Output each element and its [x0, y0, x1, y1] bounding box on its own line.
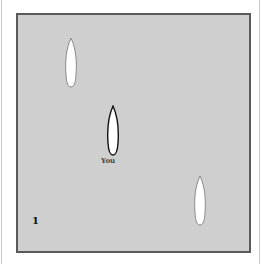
player-boat — [105, 105, 121, 157]
frame-left-border — [1, 0, 2, 264]
frame-right-border — [259, 0, 260, 264]
boat-icon — [63, 37, 79, 89]
boat-icon — [192, 175, 208, 227]
boat-icon — [105, 105, 121, 157]
opponent-boat-2 — [192, 175, 208, 227]
player-label: You — [101, 156, 115, 165]
level-number: 1 — [32, 215, 39, 226]
game-board-sea[interactable] — [16, 13, 251, 253]
opponent-boat-1 — [63, 37, 79, 89]
